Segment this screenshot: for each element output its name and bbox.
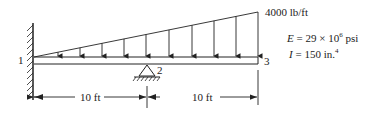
- material-properties: E = 29 × 106 psi I = 150 in.4: [287, 29, 358, 60]
- beam: [34, 57, 258, 64]
- node-3-label: 3: [264, 56, 270, 67]
- inertia-line: I = 150 in.4: [287, 45, 358, 61]
- fixed-wall: [27, 23, 33, 100]
- dimension-label-1: 10 ft: [80, 92, 100, 103]
- distributed-load: [34, 12, 258, 57]
- node-1-label: 1: [18, 55, 24, 66]
- modulus-line: E = 29 × 106 psi: [287, 29, 358, 45]
- load-magnitude-label: 4000 lb/ft: [265, 7, 308, 18]
- pin-support: [133, 65, 160, 81]
- node-2-label: 2: [157, 65, 163, 76]
- dimension-label-2: 10 ft: [192, 92, 212, 103]
